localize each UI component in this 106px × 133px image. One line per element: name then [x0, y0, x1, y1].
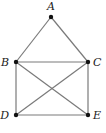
- node-e: [86, 113, 90, 117]
- nodes-group: [14, 15, 90, 117]
- node-a: [49, 15, 53, 19]
- node-label-c: C: [93, 56, 102, 69]
- node-b: [14, 60, 18, 64]
- edge-a-b: [16, 17, 51, 62]
- graph-diagram: ABCDE: [0, 0, 106, 133]
- node-label-d: D: [0, 109, 9, 122]
- edges-group: [16, 17, 88, 115]
- node-c: [86, 60, 90, 64]
- node-label-a: A: [46, 0, 55, 13]
- edge-a-c: [51, 17, 88, 62]
- node-label-b: B: [0, 56, 9, 69]
- node-d: [14, 113, 18, 117]
- node-label-e: E: [92, 109, 101, 122]
